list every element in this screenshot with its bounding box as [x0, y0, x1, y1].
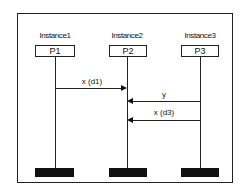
- instance1-label: Instance1: [39, 31, 70, 40]
- end-bar-p3: [181, 168, 219, 177]
- process-box-p2: P2: [109, 45, 147, 57]
- arrow-head-left-icon: [127, 117, 133, 123]
- message-arrow-x-d3: [133, 120, 200, 121]
- lifeline-p1: [55, 57, 56, 169]
- message-label-x-d1: x (d1): [82, 77, 102, 86]
- lifeline-p2: [127, 57, 128, 169]
- end-bar-p1: [35, 168, 74, 177]
- lifeline-p3: [200, 57, 201, 169]
- message-label-x-d3: x (d3): [154, 108, 174, 117]
- instance2-label: Instance2: [111, 31, 142, 40]
- end-bar-p2: [109, 168, 147, 177]
- message-arrow-y: [133, 101, 200, 102]
- process-box-p1: P1: [35, 45, 75, 57]
- message-label-y: y: [162, 90, 166, 99]
- message-arrow-x-d1: [55, 88, 122, 89]
- process-box-p3: P3: [181, 45, 219, 57]
- arrow-head-left-icon: [127, 98, 133, 104]
- instance3-label: Instance3: [184, 31, 215, 40]
- arrow-head-right-icon: [121, 85, 127, 91]
